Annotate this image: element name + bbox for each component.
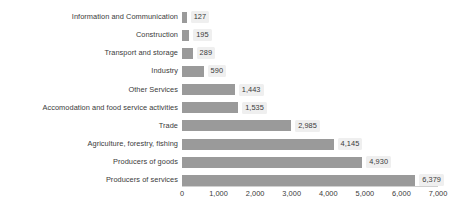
- bar-value-label: 2,985: [295, 120, 320, 132]
- bar-value-label: 1,443: [239, 84, 264, 96]
- bar-value-label: 4,145: [338, 138, 363, 150]
- bar-and-value: 1,535: [182, 99, 267, 117]
- bar[interactable]: [182, 175, 415, 186]
- bar-value-label: 6,379: [419, 174, 444, 186]
- bar-value-label: 127: [191, 11, 209, 23]
- category-label: Information and Communication: [72, 8, 178, 26]
- bar-row: Transport and storage289: [0, 44, 459, 62]
- bar-and-value: 4,930: [182, 153, 391, 171]
- category-label: Producers of services: [106, 171, 178, 189]
- x-tick-label: 2,000: [246, 188, 265, 200]
- bar-row: Other Services1,443: [0, 81, 459, 99]
- bar-chart: Information and Communication127Construc…: [0, 0, 459, 219]
- bar-row: Producers of goods4,930: [0, 153, 459, 171]
- category-label: Industry: [151, 62, 178, 80]
- bar-value-label: 289: [197, 47, 215, 59]
- x-tick-label: 7,000: [429, 188, 448, 200]
- bar-and-value: 195: [182, 26, 212, 44]
- bar-and-value: 2,985: [182, 117, 320, 135]
- bar[interactable]: [182, 139, 334, 150]
- x-tick-label: 5,000: [355, 188, 374, 200]
- category-label: Other Services: [128, 81, 178, 99]
- category-label: Accomodation and food service activities: [42, 99, 178, 117]
- x-axis-tick-labels: 01,0002,0003,0004,0005,0006,0007,000: [0, 188, 459, 202]
- bar-value-label: 4,930: [366, 156, 391, 168]
- x-tick-label: 0: [180, 188, 184, 200]
- bar-and-value: 590: [182, 62, 226, 80]
- category-label: Trade: [159, 117, 178, 135]
- bar-value-label: 195: [193, 29, 211, 41]
- bar[interactable]: [182, 84, 235, 95]
- x-axis-line: [182, 186, 438, 187]
- category-label: Agriculture, forestry, fishing: [88, 135, 179, 153]
- bar[interactable]: [182, 157, 362, 168]
- bar-and-value: 289: [182, 44, 215, 62]
- x-tick-label: 1,000: [209, 188, 228, 200]
- bar[interactable]: [182, 120, 291, 131]
- bar-row: Information and Communication127: [0, 8, 459, 26]
- bar[interactable]: [182, 30, 189, 41]
- x-tick-label: 6,000: [392, 188, 411, 200]
- bar-row: Industry590: [0, 62, 459, 80]
- bar-value-label: 1,535: [242, 102, 267, 114]
- bar[interactable]: [182, 102, 238, 113]
- category-label: Producers of goods: [113, 153, 178, 171]
- bar-value-label: 590: [208, 65, 226, 77]
- bar-and-value: 4,145: [182, 135, 362, 153]
- bar-row: Accomodation and food service activities…: [0, 99, 459, 117]
- category-label: Transport and storage: [105, 44, 179, 62]
- bar[interactable]: [182, 12, 187, 23]
- bar[interactable]: [182, 66, 204, 77]
- bar-row: Agriculture, forestry, fishing4,145: [0, 135, 459, 153]
- category-label: Construction: [136, 26, 178, 44]
- x-tick-label: 4,000: [319, 188, 338, 200]
- bar[interactable]: [182, 48, 193, 59]
- bar-row: Trade2,985: [0, 117, 459, 135]
- x-tick-label: 3,000: [282, 188, 301, 200]
- bar-row: Construction195: [0, 26, 459, 44]
- bar-and-value: 1,443: [182, 81, 264, 99]
- bar-and-value: 127: [182, 8, 209, 26]
